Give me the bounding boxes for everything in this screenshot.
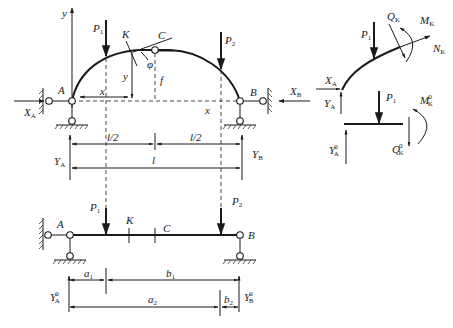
reaction-xa-label: XA (23, 106, 36, 120)
reaction-ya-label: YA (54, 155, 65, 169)
label-half-span-right: l/2 (190, 131, 202, 143)
label-k: K (121, 28, 130, 40)
reaction-xa-label-fb: XA (324, 74, 337, 88)
normal-force-label: NK (432, 42, 445, 56)
reaction-ya-label-fb: YA (324, 97, 335, 111)
label-b2: b2 (224, 293, 234, 307)
x-axis-label: x (204, 104, 210, 116)
moment-label: MK (419, 14, 434, 28)
crown-hinge-c (152, 47, 159, 54)
label-f: f (160, 74, 165, 86)
reaction-xb-label: XB (289, 85, 302, 99)
moment-label-beam-fb: M0K (419, 93, 433, 108)
load-p1-label-beam-fb: P1 (385, 91, 397, 105)
label-x-coord: x (99, 85, 105, 97)
shear-force-label: QK (387, 10, 400, 24)
beam-load-p1-label: P1 (89, 201, 101, 215)
arch-beam-diagram: y x A (0, 0, 453, 328)
reaction-ya0-label: Y0A (50, 290, 60, 305)
y-axis-label: y (61, 7, 67, 19)
arch-curve (72, 50, 240, 101)
label-span: l (152, 154, 155, 166)
beam-label-c: C (163, 222, 171, 234)
beam-label-a: A (56, 218, 64, 230)
beam-load-p2-label: P2 (231, 195, 243, 209)
beam-label-b: B (248, 229, 255, 241)
reaction-yb-label: YB (252, 148, 263, 162)
normal-force-arrow (400, 36, 430, 47)
label-a2: a2 (148, 293, 158, 307)
support-b (223, 88, 272, 129)
simple-beam: A B K C P1 P2 Y0A Y0B (39, 195, 256, 316)
shear-force-label-beam-fb: Q0K (392, 142, 404, 157)
label-a1: a1 (84, 267, 94, 281)
beam-label-k: K (125, 214, 134, 226)
three-hinged-arch: y x A (14, 7, 310, 210)
arch-segment (342, 47, 400, 90)
label-a: A (57, 84, 65, 96)
load-p2-label: P2 (224, 34, 236, 48)
reaction-ya0-label-fb: Y0A (329, 143, 339, 158)
label-b1: b1 (166, 267, 176, 281)
label-half-span-left: l/2 (107, 131, 119, 143)
label-phi: φ (147, 58, 153, 70)
label-c: C (158, 29, 166, 41)
label-y-coord: y (122, 70, 128, 82)
reaction-yb0-label: Y0B (244, 290, 254, 305)
load-p1-label-fb: P1 (360, 28, 372, 42)
load-p1-label: P1 (92, 22, 104, 36)
free-body-beam: P1 Q0K M0K Y0A (329, 91, 433, 164)
moment-arrow-beam-fb (413, 109, 427, 144)
label-b: B (250, 86, 257, 98)
